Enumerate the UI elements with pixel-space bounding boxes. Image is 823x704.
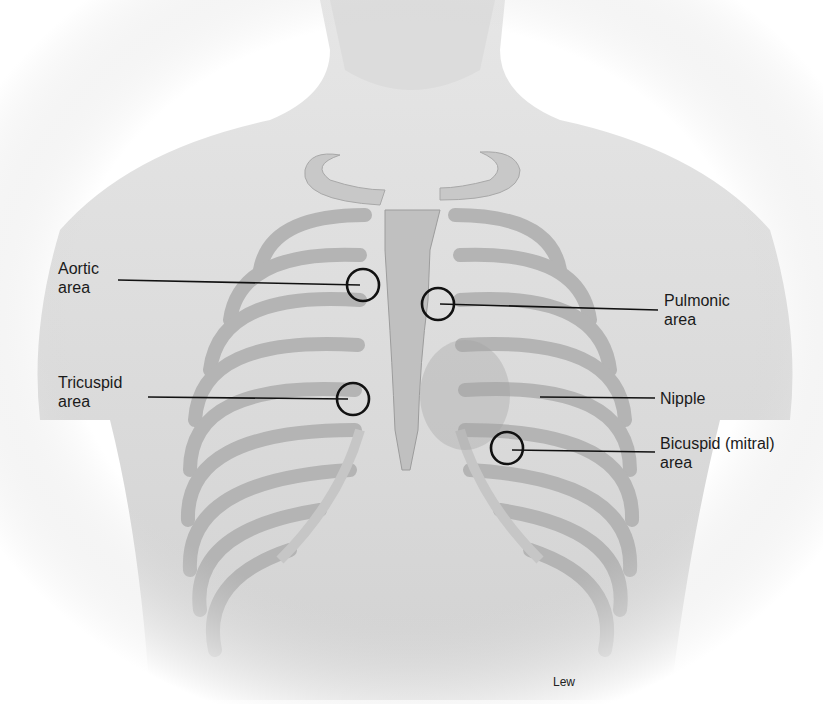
label-bicuspid-area: Bicuspid (mitral) area	[660, 434, 775, 472]
label-line: area	[58, 392, 122, 411]
illustrator-credit: Lew	[553, 675, 575, 689]
label-line: Pulmonic	[664, 291, 730, 310]
label-pulmonic-area: Pulmonic area	[664, 291, 730, 329]
label-aortic-area: Aortic area	[58, 259, 99, 297]
label-line: Aortic	[58, 259, 99, 278]
label-line: area	[660, 453, 775, 472]
label-line: Nipple	[660, 389, 705, 408]
label-line: Bicuspid (mitral)	[660, 434, 775, 453]
chest-anatomy-illustration	[0, 0, 823, 704]
label-line: area	[664, 310, 730, 329]
label-tricuspid-area: Tricuspid area	[58, 373, 122, 411]
label-line: area	[58, 278, 99, 297]
label-nipple: Nipple	[660, 389, 705, 408]
label-line: Tricuspid	[58, 373, 122, 392]
